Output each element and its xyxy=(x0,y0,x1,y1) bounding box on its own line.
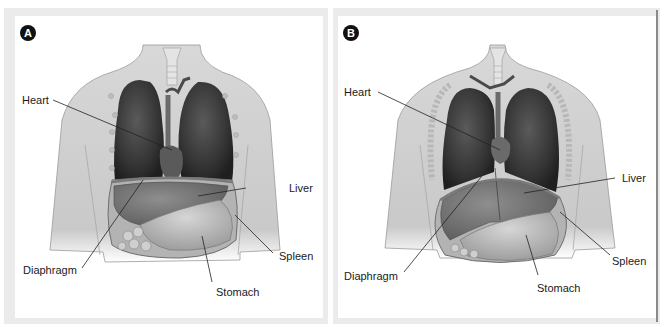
label-liver-b: Liver xyxy=(622,172,646,184)
label-diaphragm-b: Diaphragm xyxy=(344,270,398,282)
label-stomach-b: Stomach xyxy=(537,282,580,294)
label-heart-b: Heart xyxy=(344,86,371,98)
panel-b-badge: B xyxy=(343,25,359,41)
panel-b-illustration xyxy=(0,0,664,327)
label-spleen-b: Spleen xyxy=(612,255,646,267)
